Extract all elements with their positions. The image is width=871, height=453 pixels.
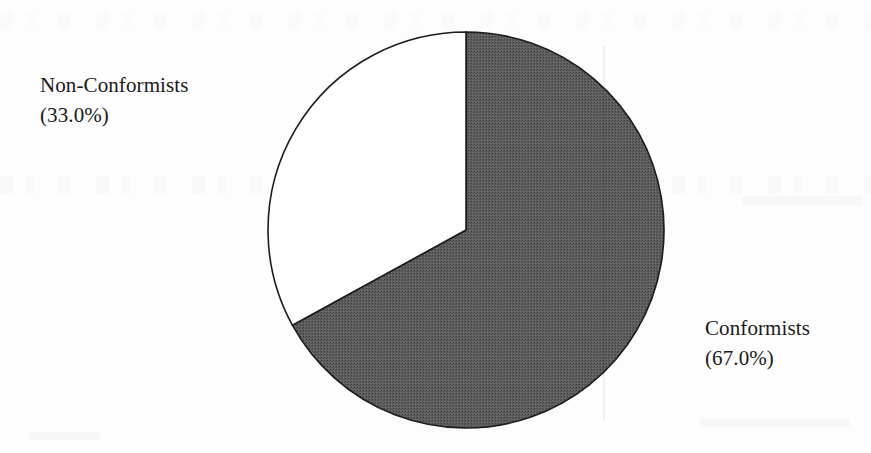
pie-label-non-conformists-percent: (33.0%) bbox=[40, 100, 189, 130]
pie-chart-page: Non-Conformists (33.0%) Conformists (67.… bbox=[0, 0, 871, 453]
pie-label-conformists: Conformists (67.0%) bbox=[705, 313, 810, 373]
pie-label-non-conformists-name: Non-Conformists bbox=[40, 70, 189, 100]
pie-label-non-conformists: Non-Conformists (33.0%) bbox=[40, 70, 189, 130]
pie-label-conformists-percent: (67.0%) bbox=[705, 343, 810, 373]
pie-label-conformists-name: Conformists bbox=[705, 313, 810, 343]
pie-chart-graphic bbox=[0, 0, 871, 453]
